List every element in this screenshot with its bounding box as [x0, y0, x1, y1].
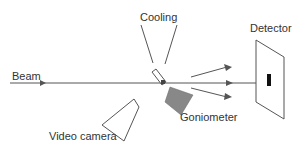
detector-label: Detector — [250, 22, 292, 34]
cooling-line-left — [141, 25, 153, 63]
cooling-label: Cooling — [140, 11, 177, 23]
beam-label: Beam — [12, 70, 41, 82]
diffracted-ray-up — [191, 67, 227, 77]
diffracted-ray-down — [191, 88, 227, 97]
beam-arrow-icon — [40, 80, 46, 86]
detector-spot — [267, 74, 271, 86]
crystal — [161, 80, 165, 84]
ray-arrow-up-icon — [224, 64, 232, 71]
cooling-line-right — [165, 25, 177, 64]
ray-arrow-mid-icon — [226, 80, 233, 86]
ray-arrow-down-icon — [224, 93, 232, 100]
goniometer-label: Goniometer — [180, 111, 237, 123]
video-camera-label: Video camera — [49, 130, 117, 142]
